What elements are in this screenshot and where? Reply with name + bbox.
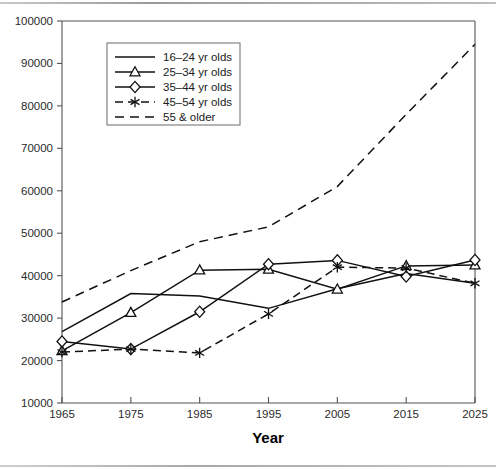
marker-diamond	[264, 259, 274, 270]
series-line	[62, 274, 475, 332]
line-chart: 1000020000300004000050000600007000080000…	[0, 0, 496, 469]
y-tick-label: 50000	[21, 227, 53, 239]
y-tick-label: 10000	[21, 397, 53, 409]
y-tick-label: 90000	[21, 57, 53, 69]
x-tick-label: 1985	[187, 408, 213, 420]
y-tick-label: 100000	[15, 15, 53, 27]
y-axis: 1000020000300004000050000600007000080000…	[15, 15, 62, 409]
marker-diamond	[57, 336, 67, 347]
y-tick-label: 70000	[21, 142, 53, 154]
chart-legend: 16–24 yr olds25–34 yr olds35–44 yr olds4…	[107, 43, 240, 125]
page-top-rule	[0, 2, 496, 4]
x-tick-label: 1975	[118, 408, 144, 420]
chart-figure: 1000020000300004000050000600007000080000…	[0, 0, 496, 469]
legend-label: 55 & older	[163, 111, 216, 123]
marker-triangle	[126, 307, 136, 316]
y-tick-label: 80000	[21, 100, 53, 112]
legend-label: 25–34 yr olds	[163, 66, 232, 78]
y-tick-label: 20000	[21, 355, 53, 367]
y-tick-label: 60000	[21, 185, 53, 197]
series-0	[62, 274, 475, 332]
series-2	[57, 254, 480, 354]
x-tick-label: 1995	[256, 408, 282, 420]
x-tick-label: 2005	[325, 408, 351, 420]
legend-label: 45–54 yr olds	[163, 96, 232, 108]
y-tick-label: 40000	[21, 270, 53, 282]
series-3	[57, 262, 479, 358]
y-tick-label: 30000	[21, 312, 53, 324]
marker-diamond	[470, 254, 480, 265]
legend-label: 35–44 yr olds	[163, 81, 232, 93]
legend-label: 16–24 yr olds	[163, 51, 232, 63]
x-tick-label: 2025	[462, 408, 488, 420]
x-tick-label: 2015	[393, 408, 419, 420]
marker-diamond	[195, 306, 205, 317]
page-bottom-rule	[0, 465, 496, 467]
x-axis-title: Year	[252, 429, 284, 446]
x-tick-label: 1965	[49, 408, 75, 420]
